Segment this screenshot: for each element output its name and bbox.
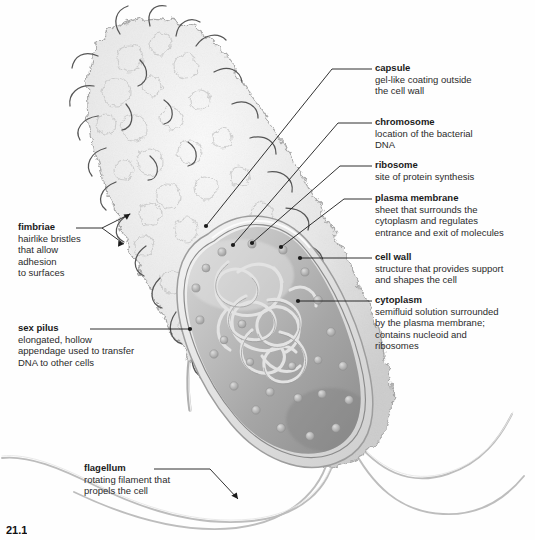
- label-fimbriae-title: fimbriae: [18, 221, 81, 233]
- label-cytoplasm-title: cytoplasm: [375, 294, 499, 306]
- label-chromosome: chromosome location of the bacterial DNA: [375, 116, 473, 151]
- label-fimbriae-desc: hairlike bristles that allow adhesion to…: [18, 233, 81, 279]
- label-cytoplasm: cytoplasm semifluid solution surrounded …: [375, 294, 499, 352]
- label-fimbriae: fimbriae hairlike bristles that allow ad…: [18, 221, 81, 279]
- label-flagellum-desc: rotating filament that propels the cell: [84, 474, 170, 497]
- label-chromosome-desc: location of the bacterial DNA: [375, 128, 473, 151]
- bacterial-cell-figure: capsule gel-like coating outside the cel…: [0, 0, 535, 540]
- label-sex-pilus: sex pilus elongated, hollow appendage us…: [18, 322, 134, 368]
- label-capsule-desc: gel-like coating outside the cell wall: [375, 74, 472, 97]
- label-cytoplasm-desc: semifluid solution surrounded by the pla…: [375, 306, 499, 352]
- label-cell-wall: cell wall structure that provides suppor…: [375, 251, 503, 286]
- figure-number: 21.1: [6, 524, 27, 540]
- label-chromosome-title: chromosome: [375, 116, 473, 128]
- label-flagellum-title: flagellum: [84, 462, 170, 474]
- label-plasma-membrane: plasma membrane sheet that surrounds the…: [375, 192, 504, 238]
- label-cell-wall-title: cell wall: [375, 251, 503, 263]
- label-plasma-membrane-desc: sheet that surrounds the cytoplasm and r…: [375, 204, 504, 239]
- label-ribosome-title: ribosome: [375, 159, 474, 171]
- label-ribosome: ribosome site of protein synthesis: [375, 159, 474, 182]
- label-plasma-membrane-title: plasma membrane: [375, 192, 504, 204]
- label-capsule: capsule gel-like coating outside the cel…: [375, 62, 472, 97]
- label-sex-pilus-title: sex pilus: [18, 322, 134, 334]
- label-cell-wall-desc: structure that provides support and shap…: [375, 263, 503, 286]
- label-capsule-title: capsule: [375, 62, 472, 74]
- label-flagellum: flagellum rotating filament that propels…: [84, 462, 170, 497]
- label-ribosome-desc: site of protein synthesis: [375, 171, 474, 183]
- label-sex-pilus-desc: elongated, hollow appendage used to tran…: [18, 334, 134, 369]
